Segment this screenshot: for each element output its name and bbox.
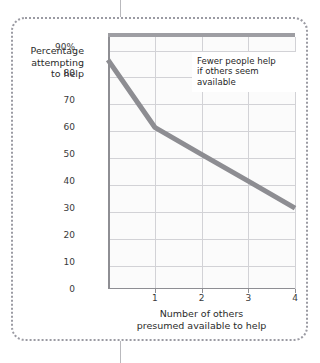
y-axis-tick-label: 30 bbox=[41, 203, 75, 213]
y-axis-tick-label: 50 bbox=[41, 149, 75, 159]
y-axis-tick-label: 90% bbox=[41, 42, 75, 52]
x-axis-tick-label: 4 bbox=[283, 293, 307, 303]
y-axis-tick-label: 10 bbox=[41, 257, 75, 267]
y-axis-tick-label: 70 bbox=[41, 95, 75, 105]
annotation-line-2: if others seem bbox=[197, 66, 291, 76]
y-axis-title-line-2: attempting bbox=[16, 57, 84, 69]
x-axis-tick-label: 2 bbox=[190, 293, 214, 303]
x-axis-tick-label: 3 bbox=[236, 293, 260, 303]
annotation-line-1: Fewer people help bbox=[197, 56, 291, 66]
x-axis-tick-label: 1 bbox=[143, 293, 167, 303]
chart-plot: Fewer people help if others seem availab… bbox=[108, 33, 295, 289]
x-axis-title-line-2: presumed available to help bbox=[108, 320, 295, 332]
y-axis-tick-label: 0 bbox=[41, 284, 75, 294]
y-axis-tick-label: 80 bbox=[41, 68, 75, 78]
page-divider-bottom bbox=[120, 341, 121, 363]
cropped-header-text bbox=[86, 0, 246, 11]
annotation-callout: Fewer people help if others seem availab… bbox=[192, 52, 296, 92]
x-axis-title-line-1: Number of others bbox=[108, 308, 295, 320]
annotation-line-3: available bbox=[197, 77, 291, 87]
y-axis-tick-label: 20 bbox=[41, 230, 75, 240]
y-axis-tick-label: 60 bbox=[41, 122, 75, 132]
x-axis-title: Number of others presumed available to h… bbox=[108, 308, 295, 332]
y-axis-tick-label: 40 bbox=[41, 176, 75, 186]
